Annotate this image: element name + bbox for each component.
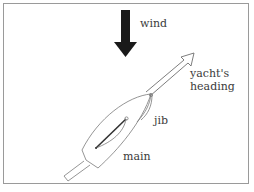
rudder-icon [64, 161, 90, 181]
wind-arrow-icon [114, 10, 137, 57]
wind-label: wind [140, 18, 167, 30]
jib-label: jib [154, 115, 168, 127]
heading-label-line1: yacht's [190, 68, 229, 80]
main-sail-icon [95, 117, 128, 149]
yacht-diagram [0, 0, 254, 192]
jib-sail-icon [137, 93, 153, 122]
heading-label-line2: heading [190, 81, 235, 93]
heading-arrow-icon [146, 53, 194, 96]
main-label: main [123, 151, 151, 163]
